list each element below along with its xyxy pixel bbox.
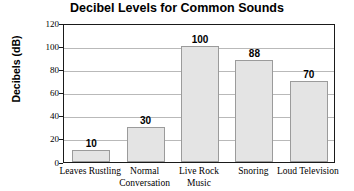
plot-area: 10301008870 [63, 24, 335, 163]
bar-value-label: 30 [127, 116, 165, 126]
bar [181, 46, 219, 162]
bar-value-label: 100 [181, 35, 219, 45]
bar-value-label: 88 [235, 49, 273, 59]
bar-value-label: 10 [72, 139, 110, 149]
bar [290, 81, 328, 162]
bars-layer: 10301008870 [64, 25, 334, 162]
x-axis-category-labels: Leaves RustlingNormal ConversationLive R… [63, 165, 335, 191]
category-label: Loud Television [275, 165, 340, 177]
bar-value-label: 70 [290, 70, 328, 80]
bar [72, 150, 110, 162]
bar [127, 127, 165, 162]
bar [235, 60, 273, 162]
bar-chart: Decibel Levels for Common Sounds Decibel… [0, 0, 354, 191]
